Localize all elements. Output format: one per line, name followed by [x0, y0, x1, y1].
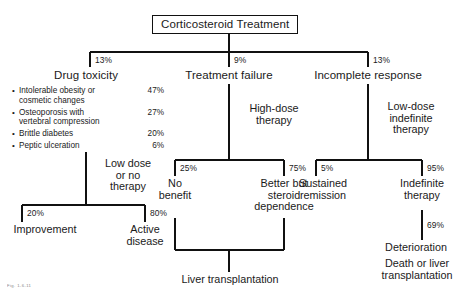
pct-sustained-remission: 5% — [321, 163, 333, 173]
pct-active-disease: 80% — [150, 208, 167, 218]
pct-deterioration: 69% — [427, 220, 444, 230]
list-item-label: Peptic ulceration — [19, 141, 140, 151]
list-item-label: Brittle diabetes — [19, 129, 140, 139]
list-item-label: Intolerable obesity or cosmetic changes — [19, 86, 140, 105]
list-item: • Osteoporosis with vertebral compressio… — [12, 108, 164, 127]
pct-treatment-failure: 9% — [234, 55, 246, 65]
root-node-corticosteroid-treatment: Corticosteroid Treatment — [152, 15, 298, 34]
node-drug-toxicity: Drug toxicity — [26, 69, 146, 81]
drug-toxicity-list: • Intolerable obesity or cosmetic change… — [12, 86, 164, 153]
edge-label-high-dose-therapy: High-dose therapy — [234, 103, 314, 126]
flowchart-diagram: Corticosteroid Treatment 13% 9% 13% Drug… — [0, 0, 464, 301]
bullet-icon: • — [12, 129, 19, 139]
list-item: • Brittle diabetes 20% — [12, 129, 164, 139]
bullet-icon: • — [12, 86, 19, 96]
node-treatment-failure: Treatment failure — [169, 69, 289, 81]
pct-incomplete-response: 13% — [373, 55, 390, 65]
pct-drug-toxicity: 13% — [95, 55, 112, 65]
pct-improvement: 20% — [27, 208, 44, 218]
node-improvement: Improvement — [0, 224, 90, 236]
pct-indefinite-therapy: 95% — [427, 163, 444, 173]
list-item-value: 20% — [140, 129, 164, 139]
pct-no-benefit: 25% — [180, 163, 197, 173]
list-item-label: Osteoporosis with vertebral compression — [19, 108, 140, 127]
node-active-disease: Active disease — [112, 224, 178, 247]
node-indefinite-therapy: Indefinite therapy — [386, 178, 458, 201]
edge-label-low-dose-indefinite-therapy: Low-dose indefinite therapy — [373, 101, 449, 136]
node-incomplete-response: Incomplete response — [303, 69, 433, 81]
list-item-value: 6% — [140, 141, 164, 151]
node-death-or-liver-transplantation: Death or liver transplantation — [370, 258, 464, 281]
node-no-benefit: No benefit — [146, 178, 204, 201]
bullet-icon: • — [12, 141, 19, 151]
figure-caption: Fig. 1-6-11 — [7, 283, 31, 288]
list-item-value: 27% — [140, 108, 164, 118]
node-sustained-remission: Sustained remission — [286, 178, 360, 201]
node-deterioration: Deterioration — [368, 242, 464, 254]
pct-better-steroid-dependence: 75% — [289, 163, 306, 173]
list-item-value: 47% — [140, 86, 164, 96]
node-liver-transplantation: Liver transplantation — [165, 274, 295, 286]
bullet-icon: • — [12, 108, 19, 118]
list-item: • Peptic ulceration 6% — [12, 141, 164, 151]
list-item: • Intolerable obesity or cosmetic change… — [12, 86, 164, 105]
